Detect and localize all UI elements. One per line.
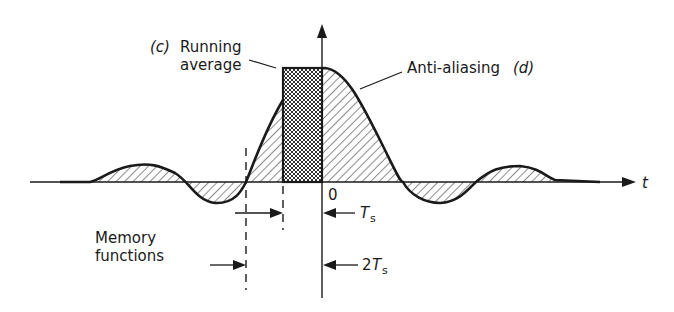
running-average-leader [249, 60, 276, 68]
ts-subscript: s [370, 212, 376, 225]
running-average-tag: (c) [150, 38, 170, 56]
anti-aliasing-label: Anti-aliasing [407, 59, 500, 77]
origin-label: 0 [328, 186, 338, 204]
memory-functions-label-line2: functions [95, 247, 164, 265]
two-ts-subscript: s [382, 264, 388, 277]
t-axis-label: t [642, 174, 649, 192]
anti-aliasing-curve [60, 68, 600, 203]
running-average-label-line1: Running [180, 38, 241, 56]
anti-aliasing-leader [360, 72, 402, 89]
memory-functions-diagram: (c) Running average Anti-aliasing (d) 0 … [0, 0, 674, 312]
memory-functions-label-line1: Memory [95, 229, 156, 247]
two-ts-dimension [210, 260, 358, 270]
two-ts-coefficient: 2 [362, 256, 372, 274]
running-average-box [283, 68, 322, 182]
ts-dimension [235, 208, 355, 218]
anti-aliasing-tag: (d) [513, 59, 534, 77]
running-average-label-line2: average [180, 56, 241, 74]
